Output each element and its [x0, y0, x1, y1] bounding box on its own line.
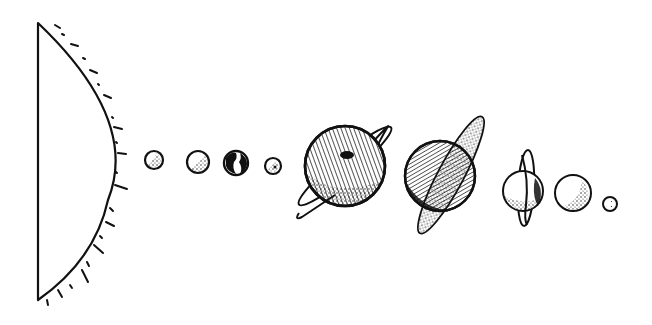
saturn: [405, 111, 493, 240]
neptune: [555, 175, 591, 211]
venus: [187, 151, 209, 173]
uranus: [503, 150, 543, 227]
earth: [224, 151, 248, 175]
solar-system-illustration: [0, 0, 652, 325]
pluto: [603, 197, 617, 211]
sun: [38, 23, 127, 305]
mercury: [145, 151, 163, 169]
mars: [265, 158, 281, 174]
jupiter: [293, 120, 398, 219]
